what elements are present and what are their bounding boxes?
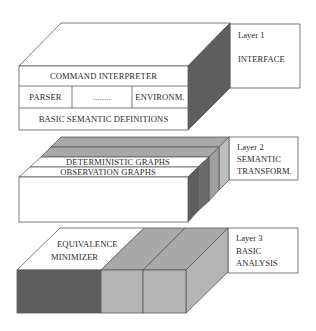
- layer-3-front-gray-2: [143, 270, 186, 313]
- layer-2-front-face: [19, 177, 188, 222]
- architecture-diagram: Layer 1 INTERFACE COMMAND INTERPRETER PA…: [0, 0, 316, 331]
- layer-3-name-line2: ANALYSIS: [236, 258, 278, 268]
- layer-2-slab-2-top: [41, 147, 219, 157]
- layer-2-right-face-2: [198, 157, 209, 211]
- layer-2-right-face-1: [188, 167, 198, 222]
- layer-1-name: INTERFACE: [238, 54, 285, 64]
- parser-label: PARSER: [29, 92, 61, 102]
- layer-1-caption: Layer 1: [238, 30, 264, 40]
- deterministic-graphs-label: DETERMINISTIC GRAPHS: [66, 157, 170, 167]
- layer-2-name-line1: SEMANTIC: [237, 154, 281, 164]
- equivalence-label: EQUIVALENCE: [57, 239, 118, 249]
- basic-semantic-definitions-label: BASIC SEMANTIC DEFINITIONS: [39, 114, 169, 124]
- layer-2-slab-1-top: [51, 137, 229, 147]
- minimizer-label: MINIMIZER: [51, 252, 98, 262]
- layer-3-front-dark: [17, 270, 101, 313]
- layer-2-right-face-4: [219, 137, 229, 190]
- layer-2-right-face-3: [209, 147, 219, 201]
- layer-1-block: Layer 1 INTERFACE COMMAND INTERPRETER PA…: [19, 23, 300, 130]
- layer-3-name-line1: BASIC: [236, 246, 262, 256]
- layer-3-caption: Layer 3: [236, 233, 262, 243]
- layer-2-caption: Layer 2: [237, 142, 263, 152]
- layer-2-block: Layer 2 SEMANTIC TRANSFORM. DETERMINISTI…: [19, 137, 298, 222]
- ellipsis-label: ........: [93, 92, 111, 102]
- layer-2-name-line2: TRANSFORM.: [237, 166, 292, 176]
- layer-3-front-gray-1: [101, 270, 143, 313]
- layer-3-block: Layer 3 BASIC ANALYSIS EQUIVALENCE MINIM…: [17, 228, 298, 313]
- observation-graphs-label: OBSERVATION GRAPHS: [60, 167, 156, 177]
- environment-label: ENVIRONM.: [135, 92, 184, 102]
- command-interpreter-label: COMMAND INTERPRETER: [50, 71, 157, 81]
